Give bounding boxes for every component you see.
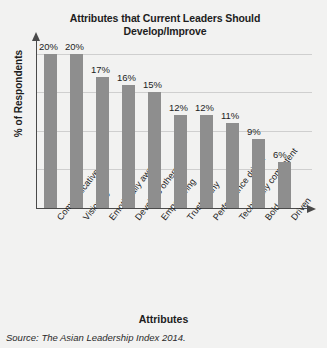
bar-value-label: 16% [117,72,136,83]
x-axis-title: Attributes [0,313,327,325]
bar [278,162,291,208]
bar-value-label: 12% [195,102,214,113]
chart-title: Attributes that Current Leaders Should D… [40,12,290,38]
bar-value-label: 15% [143,79,162,90]
chart-title-line-2: Develop/Improve [40,25,290,38]
bar-value-label: 17% [91,64,110,75]
bar-value-label: 9% [247,126,261,137]
bar-value-label: 6% [273,149,287,160]
source-note: Source: The Asian Leadership Index 2014. [6,332,186,343]
bar-value-label: 20% [39,41,58,52]
bar-value-label: 20% [65,41,84,52]
plot-area: 20%Communicative20%Visionary17%Emotional… [37,46,312,208]
chart-figure: Attributes that Current Leaders Should D… [0,0,327,348]
bar-value-label: 12% [169,102,188,113]
y-axis-title: % of Respondents [13,34,24,154]
bar [226,123,239,208]
chart-title-line-1: Attributes that Current Leaders Should [40,12,290,25]
bar [252,139,265,208]
bar [96,77,109,208]
bar-value-label: 11% [221,110,239,121]
bar [148,92,161,208]
bar [174,115,187,208]
bar [70,54,83,208]
bar [44,54,57,208]
bar [122,85,135,208]
bar [200,115,213,208]
